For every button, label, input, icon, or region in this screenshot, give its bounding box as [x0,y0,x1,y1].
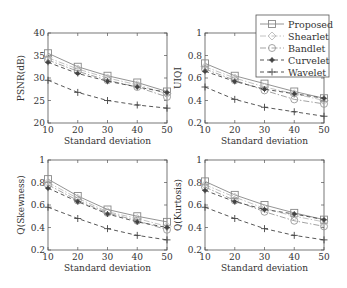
x-tick-label: 50 [318,125,330,135]
legend-label: Proposed [288,19,333,30]
y-tick-label: 0.8 [188,51,203,61]
legend-label: Shearlet [288,31,329,42]
x-axis-label: Standard deviation [221,136,308,146]
skewness-panel: 10203040500.20.40.60.81Standard deviatio… [16,155,173,273]
x-tick-label: 50 [161,252,173,262]
y-tick-label: 0.2 [188,245,202,255]
y-tick-label: 1 [196,28,202,38]
x-tick-label: 30 [102,125,114,135]
x-axis-label: Standard deviation [64,136,151,146]
x-tick-label: 20 [72,125,84,135]
series-shearlet [201,181,328,226]
x-tick-label: 20 [229,252,241,262]
y-tick-label: 0.6 [188,200,203,210]
legend-item-proposed: Proposed [260,19,333,30]
y-tick-label: 0.4 [188,96,203,106]
legend-label: Wavelet [288,67,326,78]
y-tick-label: 1 [39,155,45,165]
y-tick-label: 0.4 [31,223,46,233]
y-tick-label: 0.8 [188,178,203,188]
y-tick-label: 0.2 [31,245,45,255]
y-tick-label: 30 [34,73,46,83]
x-tick-label: 40 [289,252,301,262]
x-tick-label: 20 [229,125,241,135]
y-tick-label: 40 [34,28,46,38]
y-tick-label: 35 [34,51,46,61]
legend: ProposedShearletBandletCurveletWavelet [256,15,333,78]
chart-figure: 10203040502025303540Standard deviationPS… [0,0,347,288]
y-tick-label: 0.6 [31,200,46,210]
legend-label: Curvelet [288,55,330,66]
kurtosis-panel: 10203040500.20.40.60.81Standard deviatio… [173,155,330,273]
y-axis-label: UIQI [173,67,183,90]
y-tick-label: 0.4 [188,223,203,233]
x-axis-label: Standard deviation [221,263,308,273]
legend-label: Bandlet [288,43,326,54]
y-axis-label: PSNR(dB) [16,55,26,101]
x-tick-label: 50 [318,252,330,262]
x-axis-label: Standard deviation [64,263,151,273]
x-tick-label: 30 [259,252,271,262]
y-tick-label: 0.8 [31,178,46,188]
x-tick-label: 50 [161,125,173,135]
series-proposed [45,50,171,95]
x-tick-label: 40 [132,125,144,135]
y-tick-label: 0.6 [188,73,203,83]
psnr-panel: 10203040502025303540Standard deviationPS… [16,28,173,146]
x-tick-label: 20 [72,252,84,262]
y-tick-label: 25 [34,96,46,106]
x-tick-label: 30 [259,125,271,135]
y-tick-label: 1 [196,155,202,165]
x-tick-label: 30 [102,252,114,262]
series-shearlet [44,179,171,231]
series-proposed [45,176,171,226]
y-axis-label: Q(Kurtosis) [173,179,183,231]
x-tick-label: 40 [132,252,144,262]
x-tick-label: 40 [289,125,301,135]
plot-frame [48,160,167,250]
y-axis-label: Q(Skewness) [16,175,26,234]
y-tick-label: 20 [34,118,46,128]
y-tick-label: 0.2 [188,118,202,128]
series-curvelet [45,59,170,95]
